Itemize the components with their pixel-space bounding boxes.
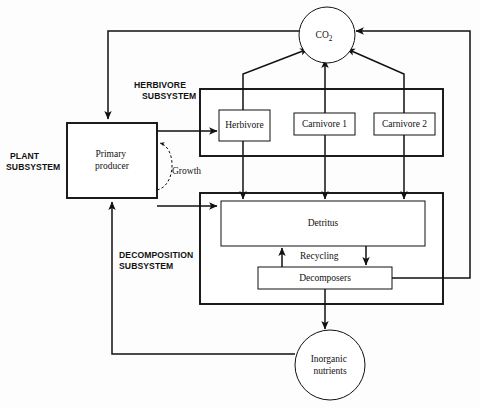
carnivore1-label: Carnivore 1	[302, 119, 347, 129]
herbivore-label: Herbivore	[225, 120, 264, 130]
recycling-label: Recycling	[300, 251, 339, 261]
ecosystem-diagram: CO2 Primary producer Herbivore Carnivore…	[0, 0, 480, 408]
decomposers-label: Decomposers	[299, 273, 351, 283]
plant-subsystem-label: PLANT SUBSYSTEM	[6, 151, 60, 172]
carnivore2-label: Carnivore 2	[382, 119, 427, 129]
herbivore-subsystem-label: HERBIVORE SUBSYSTEM	[134, 80, 196, 101]
inorganic-nutrients-circle	[295, 330, 365, 400]
growth-arc	[157, 143, 172, 190]
decomposition-subsystem-label: DECOMPOSITION SUBSYSTEM	[119, 250, 196, 271]
diagram-canvas: CO2 Primary producer Herbivore Carnivore…	[0, 0, 480, 408]
detritus-label: Detritus	[308, 218, 339, 228]
growth-label: Growth	[172, 166, 201, 176]
